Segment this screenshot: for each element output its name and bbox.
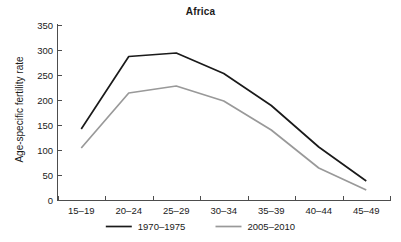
plot-area: 350 300 250 200 150 100 50 0 15–1920–242… xyxy=(0,0,401,242)
chart-figure: Africa Age-specific fertility rate 350 3… xyxy=(0,0,401,242)
y-tick-label: 150 xyxy=(37,120,53,131)
y-tick-label: 250 xyxy=(37,70,53,81)
data-series-group xyxy=(81,53,366,190)
y-tick-label: 100 xyxy=(37,145,53,156)
x-tick-labels: 15–1920–2425–2930–3435–3940–4445–49 xyxy=(68,205,379,216)
y-tick-label: 0 xyxy=(48,195,53,206)
x-tick-label: 30–34 xyxy=(211,205,237,216)
x-tick-marks xyxy=(59,196,391,201)
x-tick-label: 45–49 xyxy=(353,205,379,216)
chart-legend: 1970–19752005–2010 xyxy=(106,221,295,232)
x-tick-label: 25–29 xyxy=(163,205,189,216)
legend-label-2: 2005–2010 xyxy=(248,221,296,232)
x-tick-label: 35–39 xyxy=(258,205,284,216)
y-tick-label: 200 xyxy=(37,95,53,106)
y-tick-label: 50 xyxy=(42,170,53,181)
series-line-1 xyxy=(81,53,366,181)
series-line-2 xyxy=(81,86,366,190)
x-tick-label: 15–19 xyxy=(68,205,94,216)
x-tick-label: 20–24 xyxy=(116,205,142,216)
y-tick-marks xyxy=(58,25,63,200)
legend-label-1: 1970–1975 xyxy=(138,221,186,232)
y-tick-labels: 350 300 250 200 150 100 50 0 xyxy=(37,20,53,206)
y-tick-label: 300 xyxy=(37,45,53,56)
y-tick-label: 350 xyxy=(37,20,53,31)
x-tick-label: 40–44 xyxy=(306,205,332,216)
